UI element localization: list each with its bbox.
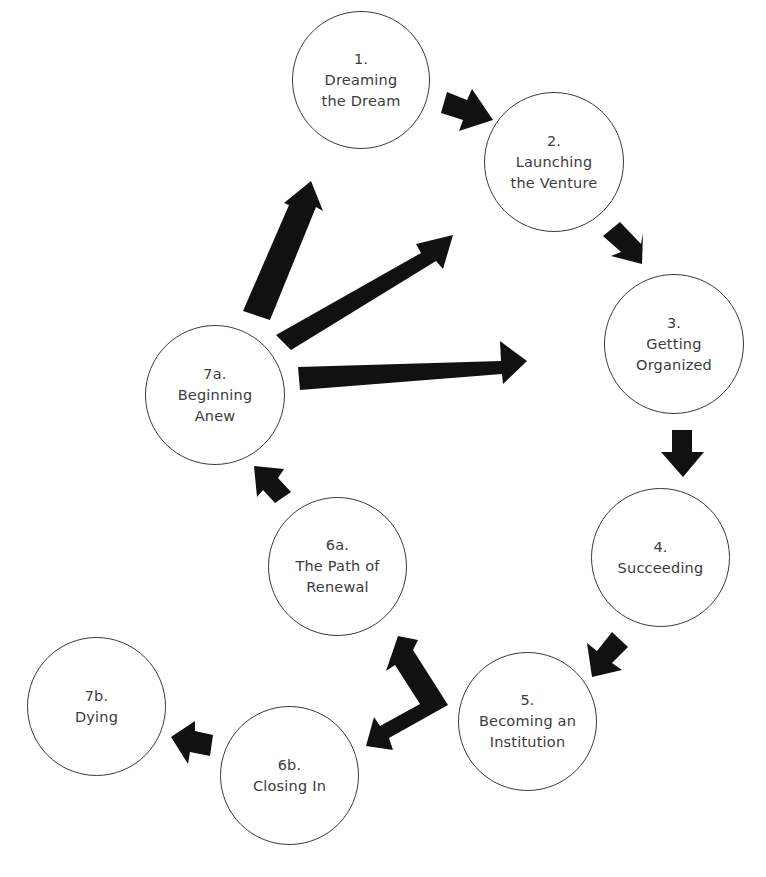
stage-number: 3.: [667, 313, 681, 334]
stage-label-line1: Succeeding: [618, 558, 704, 579]
stage-label-line1: Dying: [75, 707, 118, 728]
stage-label-line2: the Dream: [322, 91, 401, 112]
organization-lifecycle-diagram: 1. Dreaming the Dream 2. Launching the V…: [0, 0, 766, 877]
stage-number: 5.: [520, 690, 534, 711]
arrow-2-to-3-icon: [603, 222, 643, 264]
stage-label-line1: Beginning: [178, 385, 253, 406]
stage-number: 6a.: [326, 535, 349, 556]
stage-number: 1.: [354, 49, 368, 70]
stage-label-line1: Launching: [516, 152, 593, 173]
stage-number: 6b.: [278, 755, 302, 776]
stage-label-line1: Getting: [646, 334, 701, 355]
stage-label-line2: the Venture: [511, 173, 598, 194]
arrow-6b-to-7b-icon: [171, 721, 213, 764]
stage-5-becoming-an-institution: 5. Becoming an Institution: [458, 652, 597, 791]
stage-label-line1: The Path of: [295, 556, 379, 577]
stage-label-line2: Institution: [490, 732, 566, 753]
stage-number: 7b.: [85, 686, 109, 707]
stage-number: 4.: [653, 537, 667, 558]
arrow-7a-to-1-icon: [243, 181, 323, 320]
arrow-6a-to-7a-icon: [254, 466, 291, 503]
stage-label-line1: Closing In: [253, 776, 326, 797]
stage-1-dreaming-the-dream: 1. Dreaming the Dream: [292, 11, 430, 149]
stage-2-launching-the-venture: 2. Launching the Venture: [484, 92, 624, 232]
stage-7a-beginning-anew: 7a. Beginning Anew: [145, 325, 285, 465]
arrow-7a-to-2-icon: [276, 235, 453, 350]
arrow-7a-to-3-icon: [298, 341, 527, 390]
arrow-4-to-5-icon: [587, 632, 628, 677]
arrow-1-to-2-icon: [441, 89, 493, 131]
stage-label-line1: Dreaming: [325, 70, 398, 91]
stage-number: 7a.: [203, 364, 226, 385]
stage-6b-closing-in: 6b. Closing In: [220, 706, 359, 845]
stage-label-line1: Becoming an: [479, 711, 576, 732]
arrow-3-to-4-icon: [661, 430, 704, 477]
stage-3-getting-organized: 3. Getting Organized: [604, 274, 744, 414]
stage-label-line2: Anew: [195, 406, 236, 427]
stage-number: 2.: [547, 131, 561, 152]
stage-4-succeeding: 4. Succeeding: [591, 488, 730, 627]
stage-label-line2: Renewal: [306, 577, 369, 598]
stage-7b-dying: 7b. Dying: [27, 637, 166, 776]
stage-label-line2: Organized: [636, 355, 712, 376]
arrow-5-to-6a-6b-icon: [366, 636, 448, 750]
stage-6a-the-path-of-renewal: 6a. The Path of Renewal: [268, 497, 407, 636]
